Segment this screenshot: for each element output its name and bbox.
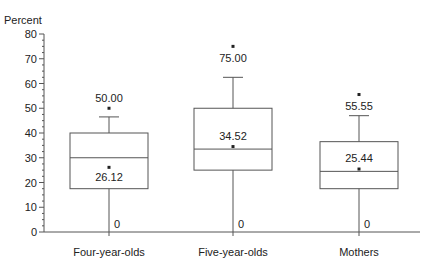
mean-value-label: 25.44 <box>345 152 373 164</box>
y-tick-label: 50 <box>25 102 37 114</box>
mean-value-label: 26.12 <box>95 171 123 183</box>
y-axis-label: Percent <box>4 14 42 26</box>
y-tick-label: 40 <box>25 127 37 139</box>
mean-value-label: 34.52 <box>219 130 247 142</box>
y-tick-label: 0 <box>31 226 37 238</box>
y-tick-label: 70 <box>25 53 37 65</box>
y-axis: 01020304050607080 <box>25 28 44 238</box>
x-tick-label: Four-year-olds <box>73 246 145 258</box>
mean-marker <box>358 168 361 171</box>
max-marker <box>358 93 361 96</box>
box-four-year-olds: 50.0026.120 <box>70 92 148 232</box>
y-tick-label: 80 <box>25 28 37 40</box>
y-tick-label: 60 <box>25 78 37 90</box>
max-value-label: 75.00 <box>219 52 247 64</box>
box-plot-chart: Percent 01020304050607080 Four-year-olds… <box>0 0 439 273</box>
mean-marker <box>108 166 111 169</box>
y-tick-label: 20 <box>25 177 37 189</box>
min-value-label: 0 <box>238 218 244 230</box>
max-value-label: 50.00 <box>95 92 123 104</box>
min-value-label: 0 <box>114 218 120 230</box>
box-series: 50.0026.12075.0034.52055.5525.440 <box>70 45 398 232</box>
max-marker <box>232 45 235 48</box>
y-tick-label: 10 <box>25 201 37 213</box>
x-axis: Four-year-oldsFive-year-oldsMothers <box>44 232 420 258</box>
mean-marker <box>232 145 235 148</box>
box-five-year-olds: 75.0034.520 <box>194 45 272 232</box>
box-mothers: 55.5525.440 <box>320 93 398 232</box>
x-tick-label: Five-year-olds <box>198 246 268 258</box>
x-tick-label: Mothers <box>339 246 379 258</box>
max-marker <box>108 107 111 110</box>
max-value-label: 55.55 <box>345 100 373 112</box>
min-value-label: 0 <box>364 218 370 230</box>
iqr-box <box>320 142 398 189</box>
y-tick-label: 30 <box>25 152 37 164</box>
